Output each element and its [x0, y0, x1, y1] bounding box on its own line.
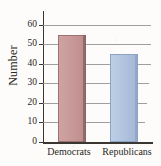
y-tick-label-0: 0 [9, 137, 37, 147]
bar-republicans-face [110, 54, 138, 142]
bar-democrats-face [58, 35, 86, 142]
y-axis-ticks: 60 50 40 30 20 10 0 [0, 0, 37, 166]
y-tick-label-20: 20 [9, 98, 37, 108]
y-tick-label-10: 10 [9, 117, 37, 127]
y-tick-label-60: 60 [9, 20, 37, 30]
bar-democrats[interactable] [58, 35, 86, 142]
bar-chart: Number 60 50 40 30 20 10 0 [0, 0, 161, 166]
y-tick-label-40: 40 [9, 59, 37, 69]
bar-democrats-shadow [83, 35, 86, 142]
x-tick-label-democrats: Democrats [44, 146, 94, 157]
bar-republicans[interactable] [110, 54, 138, 142]
y-tick-label-50: 50 [9, 39, 37, 49]
x-axis-line [43, 142, 153, 144]
plot-area [43, 12, 151, 142]
y-tick-label-30: 30 [9, 78, 37, 88]
x-tick-label-republicans: Republicans [96, 146, 158, 157]
bar-republicans-shadow [135, 54, 138, 142]
gridline-60 [43, 25, 151, 26]
